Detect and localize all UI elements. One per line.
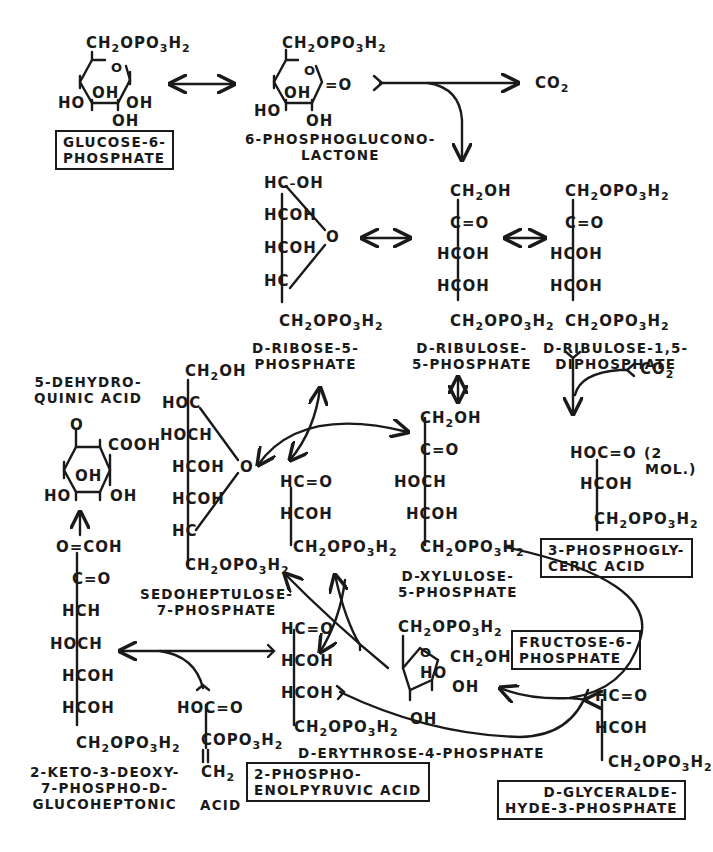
dhq-oh-2: OH xyxy=(110,489,137,504)
xylulose-line-2: C=O xyxy=(420,443,459,458)
pga-line-1: HOC=O xyxy=(570,446,637,461)
lactone-carbonyl: =O xyxy=(325,78,352,93)
diphosphate-line-4: HCOH xyxy=(550,279,603,294)
diphosphate-line-2: C=O xyxy=(565,216,604,231)
triose-line-1: HC=O xyxy=(280,475,333,490)
erythrose-line-3: HCOH xyxy=(281,686,334,701)
glucose-oh-3: OH xyxy=(112,114,139,129)
phosphoenolpyruvic-acid-label: 2-PHOSPHO- ENOLPYRUVIC ACID xyxy=(246,762,430,802)
d-glyceraldehyde-3-phosphate-label: D-GLYCERALDE- HYDE-3-PHOSPHATE xyxy=(497,780,686,820)
dhq-ho: HO xyxy=(44,489,71,504)
lactone-oh-2: OH xyxy=(306,114,333,129)
diphosphate-line-1: CH2OPO3H2 xyxy=(565,184,670,202)
lactone-ho: HO xyxy=(254,104,281,119)
keto-line-1: O=COH xyxy=(56,540,123,555)
glucose-oh-1: OH xyxy=(92,86,119,101)
glucose-ch2opo3h2: CH2OPO3H2 xyxy=(86,36,191,54)
fructose-ring-o: O xyxy=(420,646,432,659)
erythrose-line-4: CH2OPO3H2 xyxy=(294,720,399,738)
keto-line-7: CH2OPO3H2 xyxy=(76,736,181,754)
dhq-oh-1: OH xyxy=(75,469,102,484)
sedo-line-7: CH2OPO3H2 xyxy=(185,558,290,576)
xylulose-line-4: HCOH xyxy=(406,507,459,522)
lactone-ch2opo3h2: CH2OPO3H2 xyxy=(282,36,387,54)
pga-line-2: HCOH xyxy=(580,477,633,492)
pep-line-3: CH2 xyxy=(201,765,235,783)
ribulose-line-4: HCOH xyxy=(437,279,490,294)
d-ribose-5-phosphate-label: D-RIBOSE-5- PHOSPHATE xyxy=(252,340,359,372)
d-ribulose-5-phosphate-label: D-RIBULOSE- 5-PHOSPHATE xyxy=(412,340,532,372)
triose-line-3: CH2OPO3H2 xyxy=(293,540,398,558)
sedo-line-5: HCOH xyxy=(172,492,225,507)
pga-line-3: CH2OPO3H2 xyxy=(594,512,699,530)
xylulose-line-3: HOCH xyxy=(394,475,447,490)
fructose-6-phosphate-label: FRUCTOSE-6- PHOSPHATE xyxy=(511,630,641,670)
sedo-line-4: HCOH xyxy=(172,460,225,475)
erythrose-line-2: HCOH xyxy=(281,654,334,669)
diphosphate-line-3: HCOH xyxy=(550,247,603,262)
glucose-ring-o: O xyxy=(111,61,123,74)
g3p-line-3: CH2OPO3H2 xyxy=(608,755,713,773)
diphosphate-line-5: CH2OPO3H2 xyxy=(565,314,670,332)
fructose-ch2oh: CH2OH xyxy=(450,650,512,668)
sedo-ring-o: O xyxy=(240,460,254,475)
keto-line-3: HCH xyxy=(62,604,101,619)
pep-line-2: COPO3H2 xyxy=(201,733,283,751)
glucose-ho: HO xyxy=(58,96,85,111)
keto-deoxy-glucoheptonic-acid-label: 2-KETO-3-DEOXY- 7-PHOSPHO-D- GLUCOHEPTON… xyxy=(30,764,179,812)
sedoheptulose-7-phosphate-label: SEDOHEPTULOSE- 7-PHOSPHATE xyxy=(140,586,293,618)
dehydroquinic-acid-label: 5-DEHYDRO- QUINIC ACID xyxy=(34,374,142,406)
ribulose-line-3: HCOH xyxy=(437,247,490,262)
ribulose-line-2: C=O xyxy=(450,216,489,231)
ribose-line-4: HC xyxy=(264,274,290,289)
lactone-ring-o: O xyxy=(304,64,316,77)
keto-line-6: HCOH xyxy=(62,701,115,716)
ribose-line-2: HCOH xyxy=(264,208,317,223)
pep-acid-word: ACID xyxy=(200,797,241,813)
fructose-ho: HO xyxy=(420,666,447,681)
keto-line-4: HOCH xyxy=(50,637,103,652)
fructose-oh-1: OH xyxy=(452,680,479,695)
co2-top-label: CO2 xyxy=(535,76,569,94)
ribose-line-1: HC–OH xyxy=(264,176,324,191)
ribose-line-3: HCOH xyxy=(264,241,317,256)
ribose-line-5: CH2OPO3H2 xyxy=(279,314,384,332)
sedo-line-6: HC xyxy=(172,524,198,539)
phosphogluconolactone-label: 6-PHOSPHOGLUCONO- LACTONE xyxy=(245,131,436,163)
phosphoglyceric-acid-label: 3-PHOSPHOGLY- CERIC ACID xyxy=(540,538,693,578)
xylulose-line-1: CH2OH xyxy=(420,411,482,429)
triose-line-2: HCOH xyxy=(280,507,333,522)
co2-mid-label: CO2 xyxy=(640,362,674,380)
ribulose-line-5: CH2OPO3H2 xyxy=(450,314,555,332)
ribose-ring-o: O xyxy=(326,230,340,245)
pga-note-2: MOL.) xyxy=(645,462,696,476)
keto-line-5: HCOH xyxy=(62,669,115,684)
dhq-ketone-o: O xyxy=(70,418,84,433)
glucose-6-phosphate-label: GLUCOSE-6- PHOSPHATE xyxy=(55,130,174,170)
g3p-line-2: HCOH xyxy=(595,721,648,736)
sedo-line-3: HOCH xyxy=(160,428,213,443)
g3p-line-1: HC=O xyxy=(595,689,648,704)
lactone-oh-1: OH xyxy=(284,86,311,101)
d-erythrose-4-phosphate-label: D-ERYTHROSE-4-PHOSPHATE xyxy=(298,745,545,761)
ribulose-line-1: CH2OH xyxy=(450,184,512,202)
pep-line-1: HOC=O xyxy=(177,701,244,716)
sedo-line-2: HOC xyxy=(162,396,201,411)
erythrose-line-1: HC=O xyxy=(281,622,334,637)
glucose-oh-2: OH xyxy=(126,96,153,111)
sedo-line-1: CH2OH xyxy=(185,364,247,382)
xylulose-line-5: CH2OPO3H2 xyxy=(420,540,525,558)
fructose-ch2opo3h2: CH2OPO3H2 xyxy=(398,620,503,638)
fructose-oh-2: OH xyxy=(410,712,437,727)
keto-line-2: C=O xyxy=(72,572,111,587)
dhq-cooh: COOH xyxy=(108,438,161,453)
pga-note-1: (2 xyxy=(644,446,662,460)
d-xylulose-5-phosphate-label: D-XYLULOSE- 5-PHOSPHATE xyxy=(398,568,518,600)
